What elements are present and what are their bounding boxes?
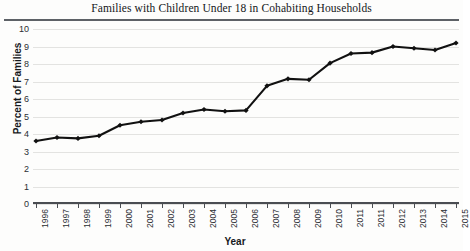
x-axis-tick-mark: [225, 204, 226, 208]
series-polyline: [36, 43, 456, 141]
x-axis-tick-label: 2014: [439, 209, 449, 228]
chart-title: Families with Children Under 18 in Cohab…: [0, 2, 463, 14]
x-axis-tick-label: 2001: [145, 209, 155, 228]
data-point-marker: [138, 119, 143, 124]
y-axis-tick-label: 4: [24, 129, 29, 139]
x-axis-tick-mark: [456, 204, 457, 208]
x-axis-tick-label: 2004: [208, 209, 218, 228]
x-axis-tick-label: 2012: [397, 209, 407, 228]
x-axis-tick-label: 2008: [292, 209, 302, 228]
y-axis-title: Percent of Families: [12, 19, 23, 159]
data-point-marker: [390, 44, 395, 49]
y-axis-tick-label: 7: [24, 77, 29, 87]
data-point-marker: [222, 109, 227, 114]
x-axis-tick-mark: [36, 204, 37, 208]
x-axis-tick-mark: [162, 204, 163, 208]
data-point-marker: [159, 117, 164, 122]
x-axis-tick-mark: [57, 204, 58, 208]
x-axis-tick-label: 1999: [103, 209, 113, 228]
x-axis-tick-mark: [393, 204, 394, 208]
x-axis-tick-mark: [351, 204, 352, 208]
x-axis-tick-mark: [435, 204, 436, 208]
x-axis-tick-label: 2010: [334, 209, 344, 228]
x-axis-tick-label: 2005: [229, 209, 239, 228]
x-axis-tick-mark: [78, 204, 79, 208]
x-axis-tick-mark: [414, 204, 415, 208]
x-axis-tick-mark: [330, 204, 331, 208]
x-axis-tick-label: 2006: [250, 209, 260, 228]
data-point-marker: [201, 107, 206, 112]
x-axis-tick-label: 2007: [271, 209, 281, 228]
y-axis-tick-label: 3: [24, 147, 29, 157]
data-point-marker: [453, 40, 458, 45]
y-axis-tick-label: 8: [24, 59, 29, 69]
x-axis-tick-label: 2015: [460, 209, 470, 228]
x-axis-tick-mark: [309, 204, 310, 208]
data-point-marker: [369, 50, 374, 55]
data-point-marker: [75, 136, 80, 141]
x-axis-tick-mark: [267, 204, 268, 208]
data-point-marker: [180, 110, 185, 115]
x-axis-tick-label: 2009: [313, 209, 323, 228]
x-axis-tick-label: 2002: [166, 209, 176, 228]
title-divider: [4, 19, 459, 21]
x-axis-tick-mark: [288, 204, 289, 208]
data-point-marker: [285, 76, 290, 81]
x-axis-tick-mark: [120, 204, 121, 208]
data-point-marker: [411, 46, 416, 51]
x-axis-tick-mark: [204, 204, 205, 208]
x-axis-tick-label: 1996: [40, 209, 50, 228]
x-axis-tick-label: 2013: [418, 209, 428, 228]
x-axis-tick-label: 1998: [82, 209, 92, 228]
x-axis-tick-label: 2000: [124, 209, 134, 228]
y-axis-tick-label: 10: [19, 24, 29, 34]
y-axis-tick-label: 2: [24, 164, 29, 174]
x-axis-tick-mark: [141, 204, 142, 208]
data-point-marker: [432, 47, 437, 52]
y-axis-tick-label: 1: [24, 182, 29, 192]
x-axis-title: Year: [185, 236, 285, 247]
x-axis-tick-label: 2003: [187, 209, 197, 228]
x-axis-tick-label: 2011: [376, 209, 386, 227]
x-axis-tick-mark: [183, 204, 184, 208]
x-axis-tick-mark: [372, 204, 373, 208]
y-axis-tick-label: 5: [24, 112, 29, 122]
y-axis-tick-label: 0: [24, 199, 29, 209]
y-axis-tick-label: 9: [24, 42, 29, 52]
plot-area: 012345678910 199619971998199920002001200…: [33, 29, 459, 204]
x-axis-tick-label: 2011: [355, 209, 365, 227]
data-point-marker: [54, 135, 59, 140]
data-point-marker: [33, 138, 38, 143]
x-axis-tick-mark: [246, 204, 247, 208]
x-axis-tick-label: 1997: [61, 209, 71, 228]
data-series-line: [33, 29, 459, 204]
x-axis-tick-mark: [99, 204, 100, 208]
y-axis-tick-label: 6: [24, 94, 29, 104]
